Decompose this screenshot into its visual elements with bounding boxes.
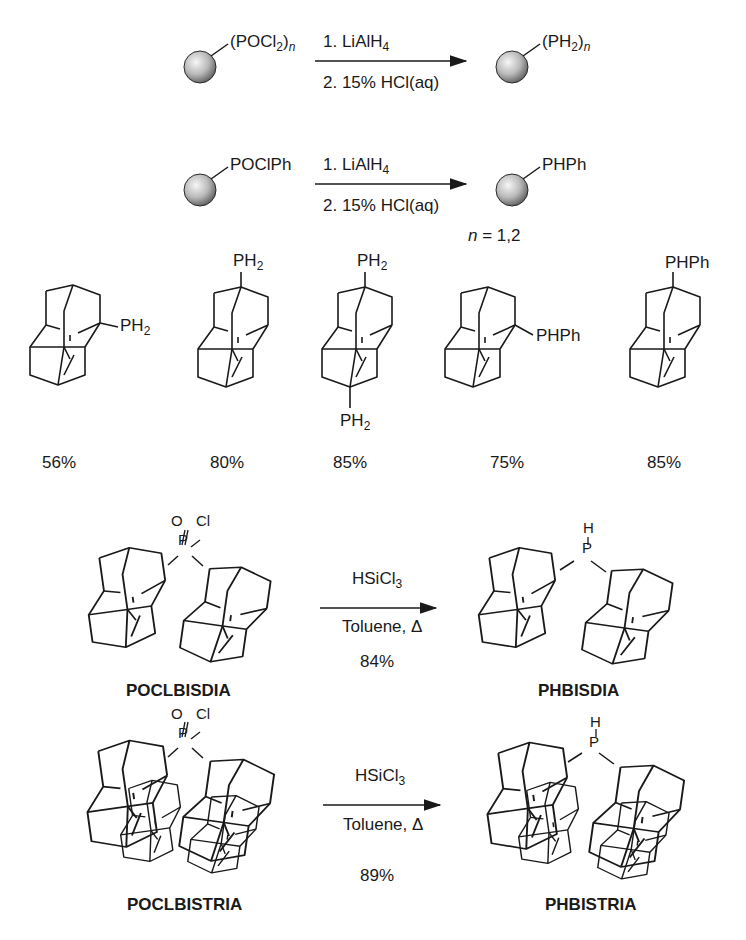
- conditions: Toluene, Δ: [343, 815, 423, 835]
- chlorine-atom: Cl: [196, 705, 210, 722]
- substituent-label: PHPh: [665, 253, 709, 273]
- reagent-step1-2: 1. LiAlH4: [323, 155, 389, 175]
- compound-label-phbisdia: PHBISDIA: [538, 681, 619, 701]
- reactant-group-2: POClPh: [230, 155, 291, 175]
- phosphorus-atom: P: [582, 539, 592, 556]
- yield-label: 80%: [210, 453, 244, 473]
- phosphorus-atom: P: [589, 733, 599, 750]
- compound-label-poclbistria: POCLBISTRIA: [127, 895, 242, 915]
- phosphorus-atom: P: [178, 531, 188, 548]
- phosphorus-atom: P: [178, 724, 188, 741]
- substituent-label: PH2: [340, 411, 370, 431]
- yield-label: 85%: [647, 453, 681, 473]
- compound-label-poclbisdia: POCLBISDIA: [126, 681, 231, 701]
- reagent-step1-1: 1. LiAlH4: [323, 32, 389, 52]
- n-note: n = 1,2: [468, 226, 520, 246]
- product-group-2: PHPh: [542, 155, 586, 175]
- product-group-1: (PH2)n: [542, 32, 590, 52]
- conditions: Toluene, Δ: [342, 617, 422, 637]
- reagent-step2-2: 2. 15% HCl(aq): [323, 196, 439, 216]
- yield-label: 75%: [490, 453, 524, 473]
- reactant-group-1: (POCl2)n: [230, 32, 295, 52]
- reagent: HSiCl3: [352, 569, 402, 589]
- oxygen-atom: O: [171, 512, 183, 529]
- reagent: HSiCl3: [355, 766, 405, 786]
- chlorine-atom: Cl: [196, 512, 210, 529]
- yield-label: 89%: [360, 866, 394, 886]
- compound-label-phbistria: PHBISTRIA: [545, 895, 637, 915]
- substituent-label: PH2: [120, 316, 150, 336]
- hydrogen-atom: H: [590, 713, 601, 730]
- yield-label: 56%: [42, 453, 76, 473]
- scheme-graphics: [0, 0, 746, 940]
- substituent-label: PH2: [357, 251, 387, 271]
- yield-label: 84%: [360, 652, 394, 672]
- hydrogen-atom: H: [583, 519, 594, 536]
- substituent-label: PHPh: [536, 326, 580, 346]
- oxygen-atom: O: [171, 705, 183, 722]
- substituent-label: PH2: [233, 251, 263, 271]
- yield-label: 85%: [333, 453, 367, 473]
- reagent-step2-1: 2. 15% HCl(aq): [323, 73, 439, 93]
